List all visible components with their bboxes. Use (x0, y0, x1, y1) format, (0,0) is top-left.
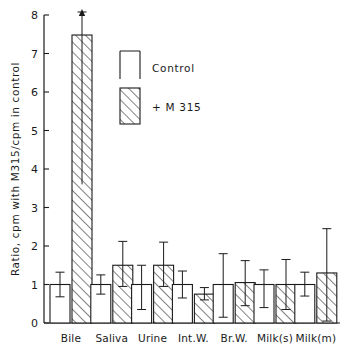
y-axis-title-text: Ratio, cpm with M315/cpm in control (9, 62, 21, 276)
y-axis: 8 7 6 5 4 3 2 (31, 9, 49, 330)
y-axis-tick-8: 8 (31, 9, 49, 22)
bar-group-milkm (295, 229, 337, 323)
legend-item-m315[interactable]: + M 315 (120, 88, 201, 124)
y-tick-label-7: 7 (31, 48, 38, 61)
open-bar-swatch (120, 51, 140, 79)
chart-legend: Control + M 315 (120, 51, 201, 124)
x-label-intw: Int.W. (178, 332, 209, 344)
bar-group-urine (132, 242, 174, 323)
y-tick-label-2: 2 (31, 240, 38, 253)
x-axis-category-labels: Bile Saliva Urine Int.W. Br.W. Milk(s) M… (61, 332, 336, 344)
x-label-urine: Urine (138, 332, 167, 344)
legend-item-control[interactable]: Control (120, 51, 195, 79)
hatched-bar-swatch (120, 88, 140, 124)
bar-group-intw (172, 271, 214, 323)
y-tick-label-0: 0 (31, 317, 38, 330)
bar-chart-svg: Ratio, cpm with M315/cpm in control 8 7 … (0, 0, 340, 355)
x-label-bile: Bile (61, 332, 81, 344)
y-axis-tick-3: 3 (31, 202, 49, 215)
y-axis-tick-4: 4 (31, 163, 49, 176)
y-axis-tick-7: 7 (31, 48, 49, 61)
bar-group-bile (50, 9, 92, 323)
y-tick-label-4: 4 (31, 163, 38, 176)
bar-group-brw (213, 254, 255, 323)
legend-label-m315: + M 315 (152, 101, 201, 113)
bars-layer (50, 9, 337, 323)
y-axis-tick-5: 5 (31, 125, 49, 138)
y-axis-tick-1: 1 (31, 279, 49, 292)
y-tick-label-5: 5 (31, 125, 38, 138)
x-label-brw: Br.W. (220, 332, 247, 344)
y-tick-label-8: 8 (31, 9, 38, 22)
bar-group-milks (254, 259, 296, 323)
bar-group-saliva (91, 241, 133, 323)
x-label-saliva: Saliva (95, 332, 128, 344)
y-axis-tick-2: 2 (31, 240, 49, 253)
x-label-milks: Milk(s) (257, 332, 293, 344)
chart-figure: Ratio, cpm with M315/cpm in control 8 7 … (0, 0, 340, 355)
y-tick-label-3: 3 (31, 202, 38, 215)
legend-label-control: Control (152, 62, 195, 74)
y-tick-label-6: 6 (31, 86, 38, 99)
x-label-milkm: Milk(m) (295, 332, 336, 344)
y-tick-label-1: 1 (31, 279, 38, 292)
y-axis-tick-6: 6 (31, 86, 49, 99)
y-axis-title: Ratio, cpm with M315/cpm in control (9, 62, 21, 276)
